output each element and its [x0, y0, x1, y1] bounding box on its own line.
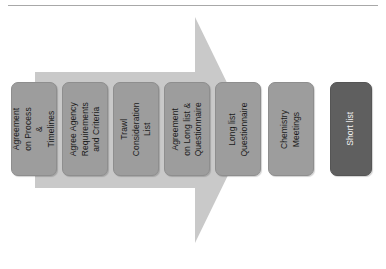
stage-box-5[interactable]: Long list Questionnaire [215, 82, 261, 176]
stage-label-wrap-4: Agreement on Long list & Questionnaire [164, 106, 210, 152]
stage-label-wrap-3: Trawl Consideration List [113, 106, 159, 152]
stage-label-wrap-6: Chemistry Meetings [269, 106, 313, 152]
diagram-canvas: Agreement on Process & Timelines Agree A… [0, 0, 386, 269]
stage-label-2: Agree Agency Requirements and Criteria [68, 102, 103, 156]
stage-label-wrap-7: Short list [331, 106, 371, 152]
stage-label-3: Trawl Consideration List [119, 102, 154, 156]
top-divider-line [8, 5, 378, 6]
stage-label-wrap-2: Agree Agency Requirements and Criteria [62, 106, 108, 152]
stage-label-1: Agreement on Process & Timelines [11, 107, 57, 151]
stage-label-wrap-1: Agreement on Process & Timelines [12, 106, 56, 152]
stage-box-short-list[interactable]: Short list [330, 82, 372, 176]
stage-label-4: Agreement on Long list & Questionnaire [170, 102, 205, 156]
stage-box-1[interactable]: Agreement on Process & Timelines [11, 82, 57, 176]
stage-label-7: Short list [345, 112, 357, 146]
stage-label-5: Long list Questionnaire [227, 102, 250, 156]
stage-box-6[interactable]: Chemistry Meetings [268, 82, 314, 176]
stage-box-2[interactable]: Agree Agency Requirements and Criteria [62, 82, 108, 176]
stage-label-wrap-5: Long list Questionnaire [215, 106, 261, 152]
stage-box-3[interactable]: Trawl Consideration List [113, 82, 159, 176]
stage-label-6: Chemistry Meetings [280, 109, 303, 148]
stage-box-4[interactable]: Agreement on Long list & Questionnaire [164, 82, 210, 176]
